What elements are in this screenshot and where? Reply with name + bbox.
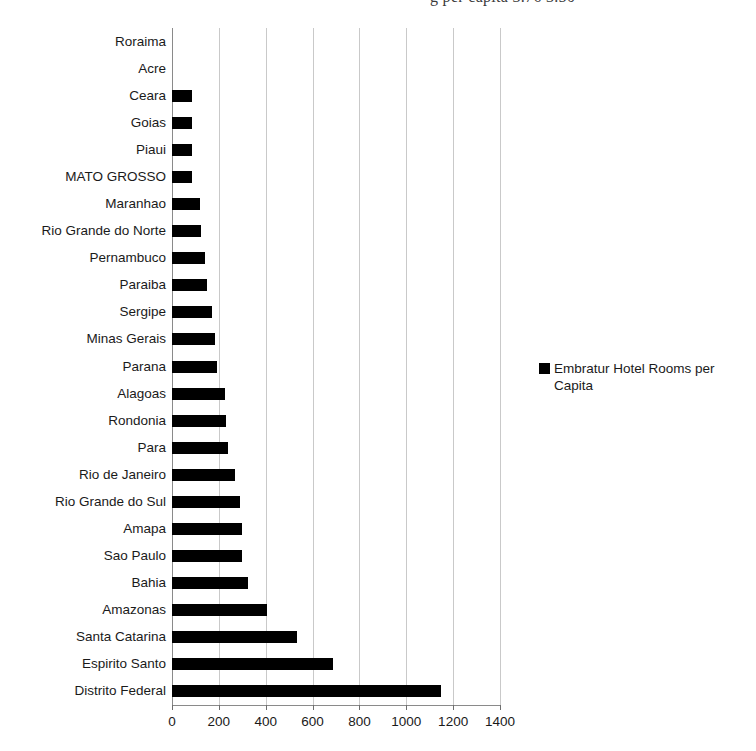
- x-tick-1400: [500, 705, 501, 710]
- bar: [172, 90, 192, 102]
- y-axis-label: Rio Grande do Sul: [0, 495, 166, 509]
- x-tick-600: [313, 705, 314, 710]
- plot-area: [172, 28, 500, 705]
- bar: [172, 523, 242, 535]
- bar: [172, 144, 192, 156]
- x-tick-1000: [406, 705, 407, 710]
- bar: [172, 685, 441, 697]
- x-axis: 0200400600800100012001400: [172, 705, 500, 745]
- x-tick-label: 400: [254, 714, 277, 730]
- x-tick-label: 1000: [391, 714, 421, 730]
- gridline-800: [359, 28, 360, 705]
- bar: [172, 604, 267, 616]
- x-tick-400: [266, 705, 267, 710]
- bar: [172, 252, 205, 264]
- x-tick-label: 1400: [485, 714, 515, 730]
- bar: [172, 361, 217, 373]
- bar: [172, 496, 240, 508]
- x-tick-label: 600: [301, 714, 324, 730]
- bar: [172, 388, 225, 400]
- y-axis-label: Distrito Federal: [0, 684, 166, 698]
- y-axis-label: Ceara: [0, 89, 166, 103]
- y-axis-label: Santa Catarina: [0, 630, 166, 644]
- y-axis-label: Alagoas: [0, 387, 166, 401]
- gridline-1000: [406, 28, 407, 705]
- bar: [172, 171, 192, 183]
- legend-swatch-icon: [539, 363, 550, 374]
- bar: [172, 198, 200, 210]
- y-axis-label: Parana: [0, 360, 166, 374]
- bar: [172, 550, 242, 562]
- y-axis-label: Bahia: [0, 576, 166, 590]
- y-axis-label: Sao Paulo: [0, 549, 166, 563]
- y-axis-label: Roraima: [0, 35, 166, 49]
- y-axis-label: Piaui: [0, 143, 166, 157]
- y-axis-label: Minas Gerais: [0, 332, 166, 346]
- x-tick-1200: [453, 705, 454, 710]
- y-axis-label: Paraiba: [0, 278, 166, 292]
- bar: [172, 658, 333, 670]
- y-axis-label: Para: [0, 441, 166, 455]
- y-axis-label: Rondonia: [0, 414, 166, 428]
- legend-label: Embratur Hotel Rooms per Capita: [554, 360, 734, 394]
- y-axis-label: MATO GROSSO: [0, 170, 166, 184]
- y-axis-label: Rio Grande do Norte: [0, 224, 166, 238]
- y-axis-label: Maranhao: [0, 197, 166, 211]
- y-axis-label: Sergipe: [0, 305, 166, 319]
- y-axis-label: Amapa: [0, 522, 166, 536]
- bar-chart: RoraimaAcreCearaGoiasPiauiMATO GROSSOMar…: [0, 0, 756, 751]
- gridline-1200: [453, 28, 454, 705]
- x-tick-0: [172, 705, 173, 710]
- bar: [172, 469, 235, 481]
- bar: [172, 225, 201, 237]
- gridline-1400: [500, 28, 501, 705]
- y-axis-label: Goias: [0, 116, 166, 130]
- bar: [172, 306, 212, 318]
- x-tick-800: [359, 705, 360, 710]
- bar: [172, 442, 228, 454]
- chart-legend: Embratur Hotel Rooms per Capita: [539, 360, 749, 394]
- y-axis-label: Rio de Janeiro: [0, 468, 166, 482]
- bar: [172, 333, 215, 345]
- x-tick-label: 1200: [438, 714, 468, 730]
- y-axis-labels: RoraimaAcreCearaGoiasPiauiMATO GROSSOMar…: [0, 28, 166, 705]
- bar: [172, 577, 248, 589]
- y-axis-label: Pernambuco: [0, 251, 166, 265]
- bar: [172, 279, 207, 291]
- bar: [172, 631, 297, 643]
- y-axis-label: Amazonas: [0, 603, 166, 617]
- x-tick-label: 800: [348, 714, 371, 730]
- bar: [172, 415, 226, 427]
- x-tick-label: 200: [208, 714, 231, 730]
- bar: [172, 117, 192, 129]
- y-axis-label: Acre: [0, 62, 166, 76]
- x-tick-label: 0: [168, 714, 176, 730]
- y-axis-label: Espirito Santo: [0, 657, 166, 671]
- x-tick-200: [219, 705, 220, 710]
- gridline-600: [313, 28, 314, 705]
